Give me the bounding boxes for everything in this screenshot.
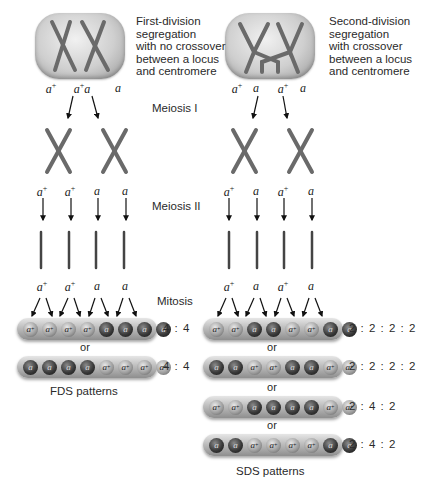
sds-description: Second-division segregation with crossov… bbox=[329, 15, 412, 78]
sds-mitosis-allele: a bbox=[244, 279, 268, 294]
spore-a-plus: a+ bbox=[266, 360, 281, 375]
sds-meiosis2-allele: a bbox=[244, 184, 268, 199]
spore-a: a bbox=[209, 360, 224, 375]
sds-ascus-1-ratio: 2 : 2 : 2 : 2 bbox=[349, 322, 416, 334]
spore-a: a bbox=[99, 322, 114, 337]
spore-a-plus: a+ bbox=[323, 360, 338, 375]
desc-line: segregation bbox=[329, 28, 412, 41]
spore-a: a bbox=[61, 360, 76, 375]
spore-a: a bbox=[80, 360, 95, 375]
fds-description: First-division segregation with no cross… bbox=[136, 15, 225, 78]
spore-a: a bbox=[266, 400, 281, 415]
desc-line: between a locus bbox=[329, 53, 412, 66]
fds-meiosis2-allele: a bbox=[113, 184, 137, 199]
sds-ascus-4: aaa+a+a+a+aa bbox=[203, 434, 343, 456]
fds-or-label: or bbox=[75, 341, 95, 353]
spore-a: a bbox=[42, 360, 57, 375]
fds-mitosis-allele: a+ bbox=[58, 279, 82, 295]
sds-ascus-3: a+a+aaaaa+a+ bbox=[203, 396, 343, 418]
desc-line: with crossover bbox=[329, 40, 412, 53]
spore-a: a bbox=[323, 322, 338, 337]
sds-ascus-2: aaa+a+aaa+a+ bbox=[203, 356, 343, 378]
spore-a-plus: a+ bbox=[209, 322, 224, 337]
spore-a-plus: a+ bbox=[80, 322, 95, 337]
desc-line: First-division bbox=[136, 15, 225, 28]
sds-ascus-4-ratio: 2 : 4 : 2 bbox=[349, 438, 396, 450]
spore-a-plus: a+ bbox=[285, 438, 300, 453]
fds-meiosis1-allele: a+a bbox=[70, 81, 94, 97]
spore-a-plus: a+ bbox=[23, 322, 38, 337]
spore-a-plus: a+ bbox=[285, 322, 300, 337]
fds-ascus-2-ratio: 4 : 4 bbox=[163, 360, 190, 372]
spore-a: a bbox=[247, 400, 262, 415]
spore-a-plus: a+ bbox=[228, 322, 243, 337]
spore-a: a bbox=[23, 360, 38, 375]
desc-line: and centromere bbox=[136, 65, 225, 78]
sds-mitosis-allele: a+ bbox=[217, 279, 241, 295]
spore-a: a bbox=[285, 360, 300, 375]
sds-mitosis-allele: a bbox=[299, 279, 323, 294]
sds-pattern-label: SDS patterns bbox=[236, 465, 304, 477]
spore-a-plus: a+ bbox=[99, 360, 114, 375]
fds-mitosis-allele: a bbox=[113, 279, 137, 294]
sds-meiosis1-allele: a bbox=[291, 81, 315, 96]
fds-ascus-2: aaaaa+a+a+a+ bbox=[17, 356, 157, 378]
fds-meiosis1-allele: a+ bbox=[39, 81, 63, 97]
desc-line: with no crossover bbox=[136, 40, 225, 53]
fds-meiosis1-allele: a bbox=[106, 81, 130, 96]
sds-ascus-3-ratio: 2 : 4 : 2 bbox=[349, 400, 396, 412]
stage-mitosis: Mitosis bbox=[157, 295, 193, 307]
spore-a-plus: a+ bbox=[118, 360, 133, 375]
spore-a: a bbox=[304, 400, 319, 415]
spore-a: a bbox=[285, 400, 300, 415]
sds-or-label-1: or bbox=[262, 341, 282, 353]
fds-ascus-1: a+a+a+a+aaaa bbox=[17, 318, 157, 340]
spore-a-plus: a+ bbox=[323, 400, 338, 415]
sds-meiosis2-allele: a+ bbox=[271, 184, 295, 200]
sds-ascus-1: a+a+aaa+a+aa bbox=[203, 318, 343, 340]
spore-a: a bbox=[323, 438, 338, 453]
desc-line: Second-division bbox=[329, 15, 412, 28]
spore-a: a bbox=[118, 322, 133, 337]
fds-pattern-label: FDS patterns bbox=[50, 385, 118, 397]
sds-meiosis2-allele: a+ bbox=[217, 184, 241, 200]
chromatid-icon bbox=[41, 232, 312, 268]
desc-line: segregation bbox=[136, 28, 225, 41]
spore-a-plus: a+ bbox=[266, 438, 281, 453]
spore-a: a bbox=[209, 438, 224, 453]
spore-a: a bbox=[266, 322, 281, 337]
desc-line: and centromere bbox=[329, 65, 412, 78]
spore-a-plus: a+ bbox=[247, 360, 262, 375]
stage-meiosis-2: Meiosis II bbox=[152, 200, 201, 212]
fds-meiosis2-allele: a bbox=[85, 184, 109, 199]
spore-a-plus: a+ bbox=[42, 322, 57, 337]
fds-mitosis-allele: a bbox=[85, 279, 109, 294]
sds-or-label-2: or bbox=[262, 381, 282, 393]
spore-a-plus: a+ bbox=[247, 438, 262, 453]
spore-a-plus: a+ bbox=[137, 360, 152, 375]
spore-a: a bbox=[228, 438, 243, 453]
sds-meiosis1-allele: a bbox=[244, 81, 268, 96]
spore-a: a bbox=[304, 360, 319, 375]
sds-ascus-2-ratio: 2 : 2 : 2 : 2 bbox=[349, 360, 416, 372]
fds-mitosis-allele: a+ bbox=[30, 279, 54, 295]
spore-a-plus: a+ bbox=[209, 400, 224, 415]
sds-meiosis2-allele: a bbox=[299, 184, 323, 199]
desc-line: between a locus bbox=[136, 53, 225, 66]
fds-meiosis2-allele: a+ bbox=[30, 184, 54, 200]
sds-mitosis-allele: a+ bbox=[271, 279, 295, 295]
fds-ascus-1-ratio: 4 : 4 bbox=[163, 322, 190, 334]
spore-a-plus: a+ bbox=[228, 400, 243, 415]
sds-or-label-3: or bbox=[262, 419, 282, 431]
fds-meiosis2-allele: a+ bbox=[58, 184, 82, 200]
spore-a: a bbox=[228, 360, 243, 375]
spore-a-plus: a+ bbox=[61, 322, 76, 337]
stage-meiosis-1: Meiosis I bbox=[152, 102, 197, 114]
spore-a: a bbox=[137, 322, 152, 337]
spore-a-plus: a+ bbox=[304, 322, 319, 337]
spore-a-plus: a+ bbox=[304, 438, 319, 453]
spore-a: a bbox=[247, 322, 262, 337]
